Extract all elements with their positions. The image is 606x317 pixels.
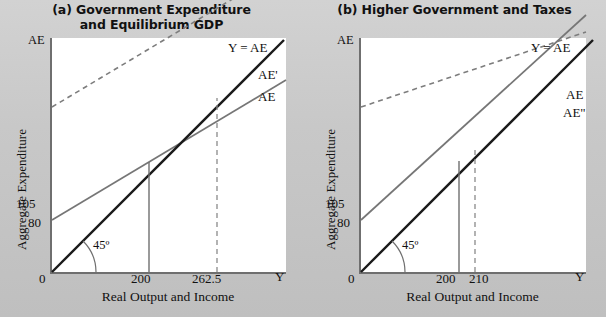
panel-b-angle-label: 45º xyxy=(402,238,418,253)
panel-b-y-axis-symbol: AE xyxy=(337,33,354,48)
panel-a-curve-ae xyxy=(52,80,286,220)
panel-a-origin-label: 0 xyxy=(39,271,46,287)
panel-a-tick-262-5: 262.5 xyxy=(192,271,221,287)
panel-a-label-ae: AE xyxy=(258,89,275,105)
panel-a-title-line1: (a) Government Expenditure xyxy=(52,2,251,17)
panel-b-tick-200: 200 xyxy=(436,271,456,287)
panel-a-curve-45-degree xyxy=(52,40,284,272)
panel-b-label-y-eq-ae: Y = AE xyxy=(531,40,570,56)
panel-b-title-line1: (b) Higher Government and Taxes xyxy=(337,2,571,17)
panel-b: (b) Higher Government and Taxes AE Aggre… xyxy=(303,0,606,317)
panel-a-tick-80: 80 xyxy=(28,215,41,231)
panel-a-tick-105: 105 xyxy=(16,196,36,212)
panel-b-x-axis-title: Real Output and Income xyxy=(359,289,586,305)
panel-a: (a) Government Expenditure and Equilibri… xyxy=(0,0,303,317)
panel-b-curves xyxy=(361,38,586,272)
panel-a-x-axis-title: Real Output and Income xyxy=(50,289,286,305)
panel-a-plot-area xyxy=(50,38,286,274)
panel-b-plot-area xyxy=(359,38,586,274)
panel-a-y-axis-symbol: AE xyxy=(28,33,45,48)
panel-a-label-y-eq-ae: Y = AE xyxy=(228,40,267,56)
economics-figure: (a) Government Expenditure and Equilibri… xyxy=(0,0,606,317)
panel-b-label-ae-double-prime: AE" xyxy=(563,105,586,121)
panel-a-label-ae-prime: AE' xyxy=(258,67,278,83)
panel-a-y-axis-title: Aggregate Expenditure xyxy=(14,129,30,250)
panel-b-curve-45-degree xyxy=(361,40,593,272)
panel-a-title-line2: and Equilibrium GDP xyxy=(0,17,303,32)
panel-a-angle-label: 45º xyxy=(93,238,109,253)
panel-a-curves xyxy=(52,38,286,272)
panel-a-tick-200: 200 xyxy=(131,271,151,287)
panel-a-title: (a) Government Expenditure and Equilibri… xyxy=(0,2,303,32)
panel-b-origin-label: 0 xyxy=(348,271,355,287)
panel-a-x-axis-symbol: Y xyxy=(275,269,284,285)
panel-b-tick-80: 80 xyxy=(337,215,350,231)
panel-b-tick-105: 105 xyxy=(325,196,345,212)
panel-b-y-axis-title: Aggregate Expenditure xyxy=(323,129,339,250)
panel-b-title: (b) Higher Government and Taxes xyxy=(303,2,606,17)
panel-b-x-axis-symbol: Y xyxy=(575,269,584,285)
panel-b-label-ae: AE xyxy=(566,87,583,103)
panel-b-tick-210: 210 xyxy=(469,271,489,287)
